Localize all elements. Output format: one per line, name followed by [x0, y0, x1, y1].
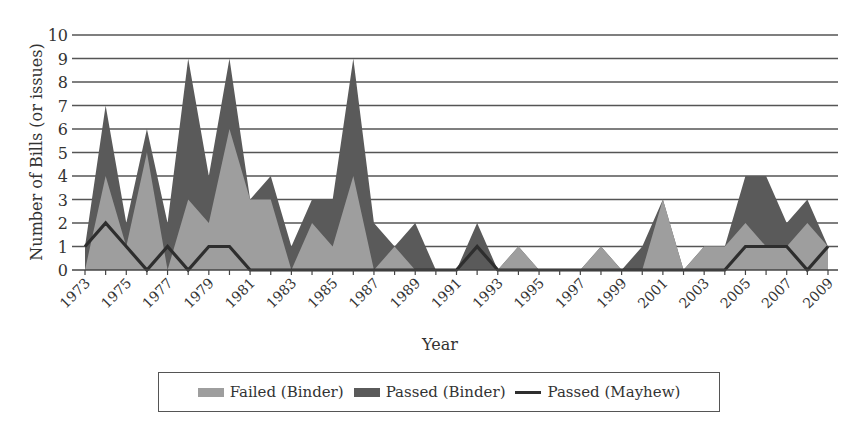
y-axis-label: Number of Bills (or issues): [27, 43, 46, 260]
svg-text:2007: 2007: [758, 275, 795, 312]
svg-text:1: 1: [58, 238, 68, 257]
legend-item-passed-mayhew: Passed (Mayhew): [515, 383, 680, 401]
svg-text:5: 5: [58, 144, 68, 163]
svg-text:7: 7: [58, 97, 68, 116]
svg-text:1989: 1989: [387, 275, 424, 312]
svg-text:2003: 2003: [676, 275, 713, 312]
chart: 0123456789101973197519771979198119831985…: [0, 0, 859, 431]
svg-text:1985: 1985: [304, 275, 341, 312]
svg-text:1981: 1981: [222, 275, 259, 312]
legend-swatch-passed: [354, 388, 380, 397]
svg-text:1973: 1973: [57, 275, 94, 312]
svg-text:1995: 1995: [511, 275, 548, 312]
legend-label: Passed (Binder): [386, 383, 506, 401]
x-axis-label: Year: [421, 335, 458, 354]
chart-areas: [85, 59, 828, 271]
svg-text:1975: 1975: [98, 275, 135, 312]
svg-text:1983: 1983: [263, 275, 300, 312]
legend-item-failed-binder: Failed (Binder): [198, 383, 344, 401]
svg-text:10: 10: [48, 26, 68, 45]
svg-text:0: 0: [58, 261, 68, 280]
svg-text:1979: 1979: [180, 275, 217, 312]
svg-text:1993: 1993: [469, 275, 506, 312]
svg-text:2005: 2005: [717, 275, 754, 312]
svg-text:4: 4: [58, 167, 68, 186]
svg-text:2: 2: [58, 214, 68, 233]
svg-text:1987: 1987: [346, 275, 383, 312]
svg-text:9: 9: [58, 50, 68, 69]
legend: Failed (Binder) Passed (Binder) Passed (…: [158, 372, 720, 412]
svg-text:1999: 1999: [593, 275, 630, 312]
svg-text:8: 8: [58, 73, 68, 92]
svg-text:1997: 1997: [552, 275, 589, 312]
svg-text:1977: 1977: [139, 275, 176, 312]
svg-text:3: 3: [58, 191, 68, 210]
svg-text:2001: 2001: [634, 275, 671, 312]
legend-item-passed-binder: Passed (Binder): [354, 383, 506, 401]
legend-swatch-line: [515, 391, 541, 394]
svg-text:1991: 1991: [428, 275, 465, 312]
svg-text:2009: 2009: [800, 275, 837, 312]
legend-swatch-failed: [198, 388, 224, 397]
svg-text:6: 6: [58, 120, 68, 139]
legend-label: Failed (Binder): [230, 383, 344, 401]
legend-label: Passed (Mayhew): [547, 383, 680, 401]
